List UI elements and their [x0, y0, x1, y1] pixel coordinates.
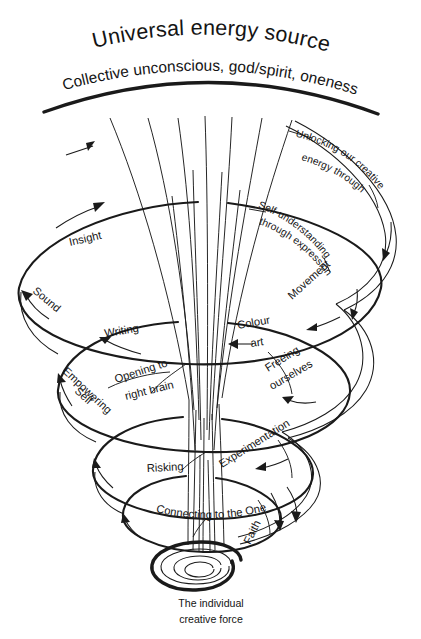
caption-line-1: The individual [178, 597, 243, 609]
caption-line-2: creative force [179, 613, 243, 625]
diagram-canvas: Universal energy source Collective uncon… [0, 0, 421, 639]
label-risking: Risking [146, 460, 183, 474]
label-art: art [250, 335, 265, 349]
vortex-diagram: Universal energy source Collective uncon… [0, 0, 421, 639]
